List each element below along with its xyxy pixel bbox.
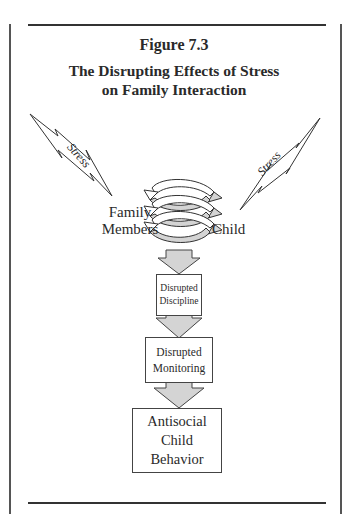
disrupted-monitoring-box: Disrupted Monitoring [145, 337, 213, 383]
down-arrow-icon [154, 380, 204, 408]
box-1-line-1: Disrupted [159, 282, 198, 295]
box-3-line-3: Behavior [147, 450, 207, 469]
box-1-line-2: Discipline [159, 295, 198, 308]
box-3-line-2: Child [147, 431, 207, 450]
family-label-line-2: Members [100, 221, 160, 238]
flow-arrow-1 [158, 250, 200, 274]
stress-bolt-left: Stress [30, 114, 112, 196]
flow-arrow-3 [154, 380, 204, 408]
down-arrow-icon [158, 250, 200, 274]
disrupted-discipline-box: Disrupted Discipline [156, 274, 202, 316]
antisocial-child-behavior-box: Antisocial Child Behavior [132, 408, 222, 473]
family-label-line-1: Family [100, 204, 160, 221]
child-label: Child [212, 221, 245, 238]
family-members-label: Family Members [100, 204, 160, 238]
box-2-line-1: Disrupted [153, 344, 205, 360]
stress-bolt-right: Stress [240, 118, 320, 210]
lightning-bolt-right-icon [240, 118, 320, 210]
box-2-line-2: Monitoring [153, 360, 205, 376]
box-3-line-1: Antisocial [147, 412, 207, 431]
